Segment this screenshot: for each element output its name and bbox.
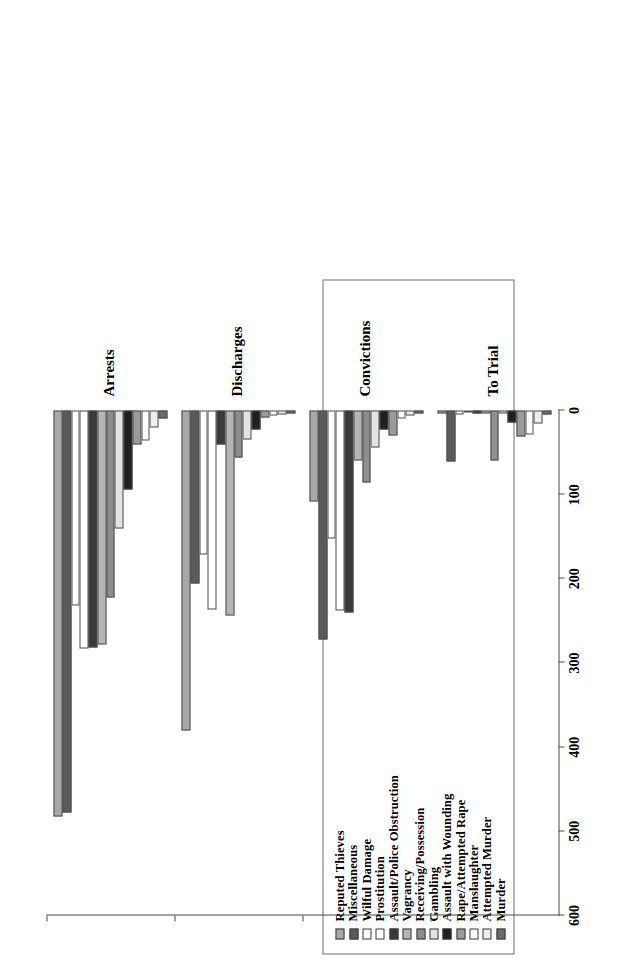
bar [251, 410, 260, 429]
bar [481, 410, 490, 413]
bar [79, 410, 88, 648]
value-axis-tick [558, 746, 564, 747]
legend-swatch-icon [375, 928, 384, 939]
legend-item: Assault/Police Obstruction [387, 292, 400, 939]
legend-item-label: Manslaughter [467, 844, 480, 921]
bar [260, 410, 269, 417]
bar [463, 410, 472, 412]
legend-item: Rape/Attempted Rape [454, 292, 467, 939]
bar [327, 410, 336, 538]
bar [353, 410, 362, 461]
bar [490, 410, 499, 461]
legend-item: Assault with Wounding [440, 292, 453, 939]
bar [53, 410, 62, 816]
value-axis-tick-label: 600 [566, 892, 582, 938]
bar [97, 410, 106, 644]
bar [277, 410, 286, 414]
bar [132, 410, 141, 444]
value-axis-tick [558, 493, 564, 494]
legend-swatch-icon [416, 928, 425, 939]
legend-item: Manslaughter [467, 292, 480, 939]
category-label-arrests: Arrests [100, 286, 117, 396]
bar [88, 410, 97, 647]
legend-item-label: Assault with Wounding [440, 793, 453, 921]
legend-item-label: Wilful Damage [360, 838, 373, 921]
bar [498, 410, 507, 413]
bar [455, 410, 464, 414]
legend-item-label: Vagrancy [400, 869, 413, 921]
legend-swatch-icon [469, 928, 478, 939]
legend-item: Vagrancy [400, 292, 413, 939]
bar [414, 410, 423, 413]
category-label-to-trial: To Trial [484, 286, 501, 396]
bar [446, 410, 455, 461]
category-axis-tick [174, 915, 175, 921]
value-axis-tick-label: 0 [566, 387, 582, 433]
bar [114, 410, 123, 528]
legend-item-label: Assault/Police Obstruction [387, 775, 400, 921]
legend-swatch-icon [389, 928, 398, 939]
rotated-figure-stage: Reputed ThievesMiscellaneousWilful Damag… [0, 0, 627, 967]
category-label-discharges: Discharges [228, 286, 245, 396]
bar [216, 410, 225, 444]
legend-item: Prostitution [373, 292, 386, 939]
bar [309, 410, 318, 501]
legend-swatch-icon [362, 928, 371, 939]
value-axis-tick [558, 577, 564, 578]
bar [286, 410, 295, 413]
legend-item-label: Attempted Murder [480, 816, 493, 921]
chart-area: Reputed ThievesMiscellaneousWilful Damag… [0, 0, 627, 967]
value-axis-tick [558, 914, 564, 915]
legend-item-label: Prostitution [373, 856, 386, 921]
bar [379, 410, 388, 429]
legend-swatch-icon [482, 928, 491, 939]
legend-item: Receiving/Possession [413, 292, 426, 939]
bar [62, 410, 71, 812]
bar [542, 410, 551, 414]
value-axis-tick [558, 409, 564, 410]
bar [149, 410, 158, 427]
value-axis-tick-label: 300 [566, 640, 582, 686]
legend-item-label: Miscellaneous [346, 844, 359, 921]
legend-swatch-icon [349, 928, 358, 939]
bar [370, 410, 379, 447]
bar [362, 410, 371, 482]
bar [106, 410, 115, 597]
bar [344, 410, 353, 612]
legend-item: Gambling [427, 292, 440, 939]
bar [199, 410, 208, 554]
value-axis-tick-label: 200 [566, 555, 582, 601]
value-axis-tick-label: 400 [566, 724, 582, 770]
bar [507, 410, 516, 422]
legend-swatch-icon [496, 928, 505, 939]
legend-item-label: Rape/Attempted Rape [454, 799, 467, 921]
category-label-convictions: Convictions [356, 286, 373, 396]
legend-swatch-icon [456, 928, 465, 939]
bar [181, 410, 190, 730]
bar [525, 410, 534, 434]
category-axis-tick [46, 915, 47, 921]
legend-item-label: Receiving/Possession [413, 807, 426, 921]
legend-swatch-icon [429, 928, 438, 939]
bar [71, 410, 80, 605]
bar [437, 410, 446, 413]
legend-item-label: Gambling [427, 866, 440, 921]
bar [516, 410, 525, 436]
bar [242, 410, 251, 439]
bar [141, 410, 150, 440]
bar [533, 410, 542, 423]
bar [472, 410, 481, 413]
bar [225, 410, 234, 615]
bar [397, 410, 406, 418]
bar [269, 410, 278, 415]
bar [388, 410, 397, 435]
category-axis-tick [302, 915, 303, 921]
bar [158, 410, 167, 418]
category-axis-tick [430, 915, 431, 921]
legend-swatch-icon [442, 928, 451, 939]
value-axis-tick-label: 100 [566, 471, 582, 517]
bar [335, 410, 344, 610]
legend-swatch-icon [335, 928, 344, 939]
value-axis-tick [558, 662, 564, 663]
value-axis-tick-label: 500 [566, 808, 582, 854]
